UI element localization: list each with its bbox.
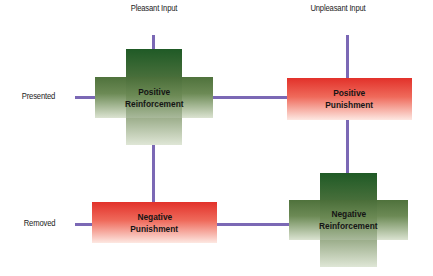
connector-pleasant-middle (152, 145, 155, 202)
row-header-presented: Presented (22, 91, 65, 101)
positive-reinforcement-line1: Positive (138, 86, 170, 98)
positive-reinforcement-line2: Reinforcement (125, 98, 184, 110)
negative-reinforcement-line1: Negative (331, 208, 366, 220)
positive-punishment-line2: Punishment (326, 99, 374, 111)
negative-punishment-line2: Punishment (131, 223, 179, 235)
negative-reinforcement-label: Negative Reinforcement (289, 200, 408, 240)
connector-unpleasant-middle (346, 120, 349, 173)
connector-removed-left (75, 223, 92, 226)
connector-pleasant-top (152, 35, 155, 49)
connector-presented-middle (213, 96, 287, 99)
negative-punishment-line1: Negative (137, 211, 172, 223)
negative-punishment-label: Negative Punishment (92, 202, 217, 243)
row-header-removed: Removed (24, 218, 67, 228)
connector-removed-middle (217, 223, 289, 226)
connector-presented-left (75, 96, 95, 99)
column-header-pleasant-input: Pleasant Input (126, 3, 182, 13)
positive-punishment-line1: Positive (333, 87, 365, 99)
positive-reinforcement-label: Positive Reinforcement (95, 77, 213, 118)
column-header-unpleasant-input: Unpleasant Input (306, 3, 371, 13)
positive-punishment-label: Positive Punishment (287, 78, 412, 120)
connector-unpleasant-top (346, 35, 349, 78)
negative-reinforcement-line2: Reinforcement (319, 220, 378, 232)
